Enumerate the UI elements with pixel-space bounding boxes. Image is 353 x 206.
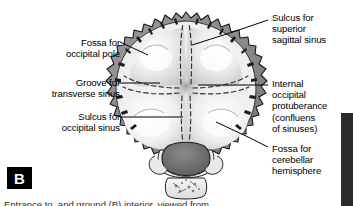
label-line: (confluens	[272, 112, 315, 123]
label-groove-transverse-sinus: Groove fortransverse sinus	[17, 77, 120, 99]
label-line: protuberance	[272, 100, 327, 111]
internal-occipital-protuberance-shading	[169, 73, 203, 99]
label-line: Sulcus for	[272, 12, 314, 23]
label-line: superior	[272, 23, 306, 34]
atlas-vertebra	[165, 178, 206, 199]
label-line: Sulcus for	[78, 111, 120, 122]
foramen-magnum	[162, 142, 210, 175]
label-line: hemisphere	[272, 165, 321, 176]
label-line: Groove for	[76, 77, 120, 88]
label-line: occipital pole	[66, 48, 120, 59]
panel-letter-badge: B	[7, 167, 32, 189]
label-line: occipital	[272, 89, 306, 100]
figure-caption: Entrance to, and ground (B) interior, vi…	[4, 199, 209, 206]
label-line: Fossa for	[81, 37, 120, 48]
label-line: transverse sinus	[52, 88, 120, 99]
label-line: Fossa for	[272, 143, 311, 154]
label-line: occipital sinus	[62, 122, 120, 133]
internal-surface	[116, 21, 256, 152]
label-line: cerebellar	[272, 154, 313, 165]
label-line: Internal	[272, 78, 303, 89]
label-sulcus-occipital-sinus: Sulcus foroccipital sinus	[24, 111, 120, 133]
page-edge-bar	[341, 113, 353, 206]
label-line: of sinuses)	[272, 123, 317, 134]
label-fossa-occipital-pole: Fossa foroccipital pole	[36, 37, 120, 59]
label-line: sagittal sinus	[272, 34, 326, 45]
label-sulcus-superior-sagittal-sinus: Sulcus forsuperiorsagittal sinus	[272, 12, 353, 46]
